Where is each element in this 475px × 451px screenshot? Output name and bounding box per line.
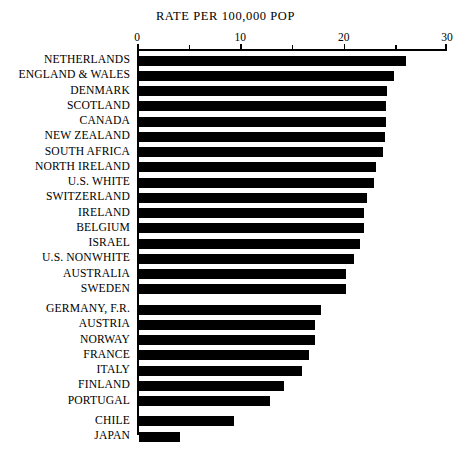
x-axis-major-tick	[344, 44, 345, 50]
bar	[139, 162, 377, 172]
bar-category-label: NORWAY	[80, 333, 130, 346]
bar-row: DENMARK	[0, 84, 475, 99]
bar-category-label: NORTH IRELAND	[35, 160, 130, 173]
bar	[139, 193, 367, 203]
chart-title: RATE PER 100,000 POP	[0, 9, 475, 24]
bar-category-label: SOUTH AFRICA	[45, 145, 130, 158]
x-axis-right-cap	[445, 44, 447, 51]
bar	[139, 335, 316, 345]
bar-row: NORTH IRELAND	[0, 160, 475, 175]
bar-category-label: U.S. NONWHITE	[42, 251, 130, 264]
bar	[139, 56, 407, 66]
bar-row: ITALY	[0, 363, 475, 378]
bar-row: CANADA	[0, 114, 475, 129]
x-axis-tick-label: 30	[441, 31, 453, 43]
x-axis-minor-tick	[292, 45, 293, 49]
bar-row: SWEDEN	[0, 282, 475, 297]
bar-row: FRANCE	[0, 348, 475, 363]
bar	[139, 223, 364, 233]
bar-row: FINLAND	[0, 378, 475, 393]
bar-row: JAPAN	[0, 429, 475, 444]
bar	[139, 147, 384, 157]
bar-row: U.S. WHITE	[0, 175, 475, 190]
x-axis-tick-label: 20	[338, 31, 350, 43]
x-axis-minor-tick	[189, 45, 190, 49]
bar	[139, 117, 386, 127]
bar-row: CHILE	[0, 414, 475, 429]
bar-row: BELGIUM	[0, 221, 475, 236]
bar-category-label: ENGLAND & WALES	[18, 68, 130, 81]
bar	[139, 71, 394, 81]
bar	[139, 432, 180, 442]
bar-row: AUSTRIA	[0, 317, 475, 332]
bar-row: IRELAND	[0, 206, 475, 221]
bar	[139, 269, 347, 279]
bar-category-label: U.S. WHITE	[68, 175, 130, 188]
bar	[139, 208, 364, 218]
bar	[139, 254, 354, 264]
x-axis-minor-tick	[395, 45, 396, 49]
bar-category-label: AUSTRIA	[79, 317, 130, 330]
bar-category-label: FINLAND	[78, 378, 130, 391]
bar-row: SCOTLAND	[0, 99, 475, 114]
bar	[139, 101, 386, 111]
bar-category-label: CHILE	[95, 414, 130, 427]
bar-category-label: ISRAEL	[89, 236, 130, 249]
bar-row: GERMANY, F.R.	[0, 302, 475, 317]
bar	[139, 366, 302, 376]
bar	[139, 239, 360, 249]
bar-row: SOUTH AFRICA	[0, 145, 475, 160]
bar	[139, 132, 385, 142]
bar	[139, 284, 347, 294]
bar-row: ENGLAND & WALES	[0, 68, 475, 83]
bar-category-label: JAPAN	[94, 429, 130, 442]
bar-category-label: SWITZERLAND	[46, 190, 130, 203]
bar-category-label: SWEDEN	[81, 282, 130, 295]
bar-category-label: NEW ZEALAND	[45, 129, 130, 142]
bar	[139, 86, 387, 96]
bar	[139, 178, 375, 188]
bar-category-label: BELGIUM	[76, 221, 130, 234]
x-axis-major-tick	[240, 44, 241, 50]
bar-category-label: ITALY	[97, 363, 130, 376]
bar-row: ISRAEL	[0, 236, 475, 251]
bar-category-label: IRELAND	[78, 206, 130, 219]
bar-row: SWITZERLAND	[0, 190, 475, 205]
bar-category-label: FRANCE	[83, 348, 130, 361]
x-axis-tick-label: 10	[235, 31, 247, 43]
bar-category-label: PORTUGAL	[68, 394, 130, 407]
bar-chart: RATE PER 100,000 POP 0102030 NETHERLANDS…	[0, 0, 475, 451]
bar	[139, 350, 310, 360]
bar	[139, 416, 234, 426]
bar-row: NORWAY	[0, 333, 475, 348]
bar-category-label: CANADA	[80, 114, 131, 127]
bar-rows: NETHERLANDSENGLAND & WALESDENMARKSCOTLAN…	[0, 53, 475, 444]
bar-category-label: AUSTRALIA	[63, 267, 130, 280]
bar-row: AUSTRALIA	[0, 267, 475, 282]
bar-category-label: DENMARK	[70, 84, 130, 97]
bar	[139, 396, 270, 406]
bar-row: NETHERLANDS	[0, 53, 475, 68]
bar	[139, 320, 316, 330]
bar	[139, 305, 322, 315]
bar-row: PORTUGAL	[0, 394, 475, 409]
bar	[139, 381, 285, 391]
bar-row: NEW ZEALAND	[0, 129, 475, 144]
bar-row: U.S. NONWHITE	[0, 251, 475, 266]
bar-category-label: SCOTLAND	[67, 99, 130, 112]
x-axis-tick-label: 0	[134, 31, 140, 43]
bar-category-label: NETHERLANDS	[44, 53, 130, 66]
x-axis-line	[137, 49, 447, 51]
bar-category-label: GERMANY, F.R.	[46, 302, 130, 315]
